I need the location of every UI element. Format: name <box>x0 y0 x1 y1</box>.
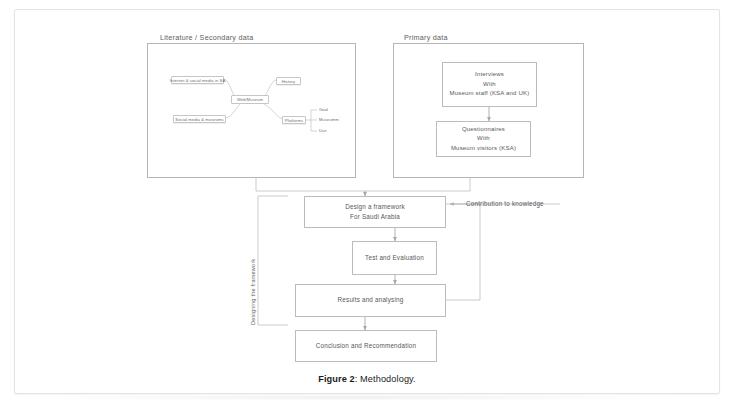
box-results-line1: Results and analysing <box>338 295 404 305</box>
figure-caption-label: Figure 2 <box>318 374 355 384</box>
box-design-line1: Design a framework <box>345 202 405 212</box>
box-interviews-line1: Interviews <box>475 70 504 80</box>
box-test-line1: Test and Evaluation <box>365 253 424 263</box>
figure-page: Literature / Secondary data Internet & s… <box>0 0 734 419</box>
mindmap-node-social-media-museums: Social media & museums <box>173 115 226 123</box>
mindmap-node-internet-social-media: Internet & social media in SA <box>171 76 224 84</box>
box-interviews: Interviews With Museum staff (KSA and UK… <box>442 62 537 107</box>
figure-caption: Figure 2: Methodology. <box>0 374 734 384</box>
mindmap-node-platforms: Platforms <box>282 116 306 124</box>
label-contribution-to-knowledge: Contribution to knowledge <box>466 200 544 207</box>
mindmap-node-history: History <box>276 77 301 85</box>
box-design-line2: For Saudi Arabia <box>350 212 400 222</box>
mindmap-center-label: Web/Museum <box>237 97 263 102</box>
box-questionnaires-line3: Museum visitors (KSA) <box>451 144 516 154</box>
mindmap-node-label: Internet & social media in SA <box>170 78 225 83</box>
mindmap-leaf-goal: Goal <box>319 107 328 112</box>
box-design-a-framework: Design a framework For Saudi Arabia <box>304 196 446 228</box>
section-label-designing-the-framework: Designing the framework <box>250 259 256 325</box>
mindmap-leaf-museumm: Museumm <box>319 117 339 122</box>
mindmap-node-label: Social media & museums <box>175 117 223 122</box>
box-conclusion-line1: Conclusion and Recommendation <box>316 341 416 351</box>
box-interviews-line3: Museum staff (KSA and UK) <box>450 89 530 99</box>
mindmap-node-label: History <box>282 79 295 84</box>
mindmap-leaf-use: Use <box>319 128 327 133</box>
mindmap-node-center-web-museum: Web/Museum <box>231 95 269 104</box>
mindmap-node-label: Platforms <box>285 118 303 123</box>
box-questionnaires-line2: With <box>477 134 490 144</box>
box-questionnaires: Questionnaires With Museum visitors (KSA… <box>436 121 531 157</box>
box-questionnaires-line1: Questionnaires <box>462 125 505 135</box>
box-test-and-evaluation: Test and Evaluation <box>352 241 437 275</box>
container-title-literature: Literature / Secondary data <box>160 33 253 42</box>
box-results-and-analysing: Results and analysing <box>295 284 446 317</box>
box-conclusion-and-recommendation: Conclusion and Recommendation <box>295 330 437 362</box>
box-interviews-line2: With <box>483 80 496 90</box>
figure-caption-text: Methodology. <box>360 374 416 384</box>
container-title-primary: Primary data <box>404 33 448 42</box>
